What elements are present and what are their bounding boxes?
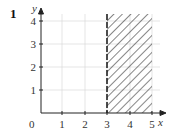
problem-number: 1	[10, 6, 17, 21]
svg-text:3: 3	[104, 118, 110, 130]
svg-text:2: 2	[82, 118, 88, 130]
svg-text:1: 1	[31, 84, 37, 96]
shaded-region	[107, 14, 152, 113]
svg-text:1: 1	[59, 118, 65, 130]
svg-text:4: 4	[127, 118, 133, 130]
origin-label: 0	[29, 118, 35, 130]
svg-text:3: 3	[31, 38, 37, 50]
y-tick-labels: 1 2 3 4	[31, 15, 37, 96]
svg-text:5: 5	[149, 118, 155, 130]
svg-text:2: 2	[31, 61, 37, 73]
x-axis-label: x	[157, 116, 163, 128]
inequality-graph: 1 y x 0 1 2 3 4 5 1 2 3 4	[0, 0, 174, 134]
x-tick-labels: 1 2 3 4 5	[59, 118, 155, 130]
y-axis-label: y	[31, 2, 37, 14]
svg-text:4: 4	[31, 15, 37, 27]
